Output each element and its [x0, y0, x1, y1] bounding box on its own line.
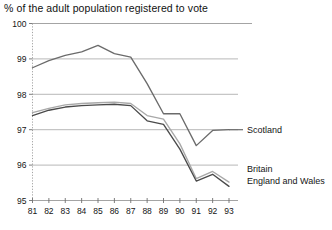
line-chart-plot: 9596979899100 81828384858687888990919293… — [0, 0, 332, 230]
y-tick-label-98: 98 — [17, 90, 27, 100]
series-line-england-and-wales — [33, 104, 230, 186]
x-axis-tick-labels: 81828384858687888990919293 — [28, 206, 234, 216]
x-tick-label-90: 90 — [175, 206, 185, 216]
series-label-england-and-wales: England and Wales — [247, 176, 325, 186]
y-tick-label-97: 97 — [17, 125, 27, 135]
series-legend-labels: ScotlandBritainEngland and Wales — [229, 125, 325, 186]
x-tick-label-88: 88 — [142, 206, 152, 216]
chart-container: % of the adult population registered to … — [0, 0, 332, 230]
series-label-britain: Britain — [247, 164, 273, 174]
y-axis-tick-labels: 9596979899100 — [12, 19, 26, 206]
x-tick-label-84: 84 — [77, 206, 87, 216]
series-line-scotland — [33, 45, 230, 145]
y-axis — [29, 24, 33, 201]
y-tick-label-100: 100 — [12, 19, 26, 29]
x-tick-label-89: 89 — [159, 206, 169, 216]
x-tick-label-81: 81 — [28, 206, 38, 216]
x-tick-label-85: 85 — [93, 206, 103, 216]
x-tick-label-93: 93 — [224, 206, 234, 216]
y-tick-label-95: 95 — [17, 196, 27, 206]
x-tick-label-92: 92 — [208, 206, 218, 216]
y-tick-label-99: 99 — [17, 54, 27, 64]
x-tick-label-87: 87 — [126, 206, 136, 216]
x-tick-label-82: 82 — [44, 206, 54, 216]
y-tick-label-96: 96 — [17, 160, 27, 170]
series-label-scotland: Scotland — [247, 125, 282, 135]
x-tick-label-91: 91 — [192, 206, 202, 216]
x-tick-label-83: 83 — [61, 206, 71, 216]
x-tick-label-86: 86 — [110, 206, 120, 216]
